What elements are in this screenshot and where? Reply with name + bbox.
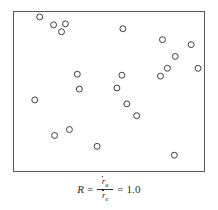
data-point — [114, 85, 120, 91]
equation-result-value: 1.0 — [126, 184, 140, 195]
denominator-base: r — [102, 191, 106, 200]
equation-equals-second: = — [117, 184, 123, 195]
data-point — [59, 29, 65, 35]
data-point — [172, 53, 178, 59]
ratio-equation: R = ra re = 1.0 — [77, 177, 141, 203]
data-point — [66, 127, 72, 133]
data-point — [32, 97, 38, 103]
data-point — [157, 73, 163, 79]
equation-lhs-symbol: R — [77, 184, 84, 195]
data-point — [159, 37, 165, 43]
data-point — [188, 42, 194, 48]
data-point — [37, 14, 43, 20]
fraction-numerator: ra — [100, 177, 111, 189]
scatter-plot-frame — [13, 11, 205, 172]
fraction-denominator: re — [100, 190, 110, 202]
data-point — [76, 86, 82, 92]
data-point — [94, 143, 100, 149]
data-point — [171, 152, 177, 158]
figure-root: R = ra re = 1.0 — [0, 0, 218, 210]
scatter-points-layer — [14, 12, 204, 171]
ratio-fraction: ra re — [97, 177, 113, 203]
data-point — [119, 72, 125, 78]
numerator-subscript: a — [105, 181, 108, 188]
numerator-base: r — [102, 177, 106, 186]
equation-equals-first: = — [87, 184, 93, 195]
data-point — [51, 22, 57, 28]
data-point — [195, 65, 201, 71]
figure-caption: R = ra re = 1.0 — [0, 177, 218, 203]
data-point — [52, 132, 58, 138]
data-point — [120, 26, 126, 32]
data-point — [124, 101, 130, 107]
data-point — [134, 113, 140, 119]
data-point — [74, 71, 80, 77]
data-point — [164, 65, 170, 71]
data-point — [62, 21, 68, 27]
